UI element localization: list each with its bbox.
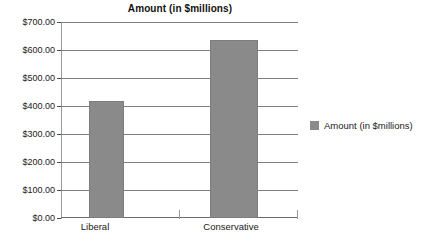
y-tick-label-0: $0.00: [3, 213, 55, 223]
legend-label-amount: Amount (in $millions): [324, 120, 413, 131]
y-tick-label-200: $200.00: [3, 157, 55, 167]
y-tick-label-700: $700.00: [3, 17, 55, 27]
bar-chart-figure: Amount (in $millions) $700.00 $600.00 $5…: [0, 0, 427, 243]
chart-legend: Amount (in $millions): [310, 120, 413, 131]
y-axis-labels: $700.00 $600.00 $500.00 $400.00 $300.00 …: [0, 0, 55, 243]
y-tick-label-400: $400.00: [3, 101, 55, 111]
bar-liberal[interactable]: [89, 101, 124, 218]
x-axis-category-separator-tick: [179, 210, 180, 219]
x-tick-label-conservative: Conservative: [196, 221, 266, 232]
x-tick-label-liberal: Liberal: [70, 221, 120, 232]
y-tick-label-600: $600.00: [3, 45, 55, 55]
chart-title: Amount (in $millions): [61, 3, 299, 14]
bar-conservative[interactable]: [210, 40, 258, 218]
plot-area: [61, 22, 298, 218]
gridline-600: [61, 50, 298, 51]
gridline-700: [61, 22, 298, 23]
y-tick-label-500: $500.00: [3, 73, 55, 83]
gridline-500: [61, 78, 298, 79]
x-axis-right-edge-tick: [297, 210, 298, 219]
y-tick-label-300: $300.00: [3, 129, 55, 139]
y-tick-label-100: $100.00: [3, 185, 55, 195]
legend-swatch-icon: [310, 121, 319, 130]
